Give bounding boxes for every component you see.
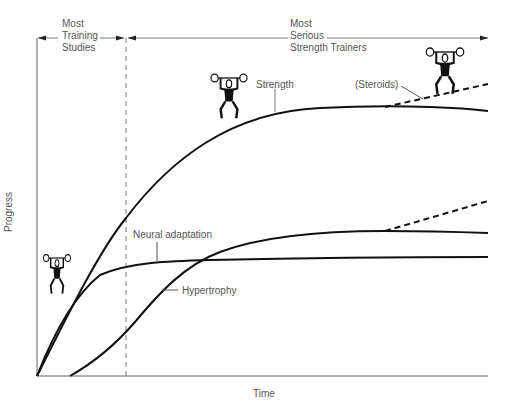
y-axis-label: Progress xyxy=(3,192,14,232)
region-right-line-3: Strength Trainers xyxy=(290,42,367,54)
diagram-canvas xyxy=(0,0,508,410)
strength-label: Strength xyxy=(256,79,294,91)
region-left-line-3: Studies xyxy=(62,42,98,54)
hypertrophy-steroids-curve xyxy=(385,201,488,231)
region-arrows xyxy=(38,36,488,41)
x-axis-label: Time xyxy=(253,388,275,400)
hypertrophy-label: Hypertrophy xyxy=(182,285,236,297)
region-left-line-2: Training xyxy=(62,30,98,42)
lifter-icon-medium xyxy=(211,74,247,118)
neural-adaptation-curve xyxy=(37,257,488,376)
neural-adaptation-label: Neural adaptation xyxy=(133,229,212,241)
steroids-leader xyxy=(401,86,423,99)
hypertrophy-curve xyxy=(70,231,488,376)
region-right-line-1: Most xyxy=(290,18,367,30)
region-right-line-2: Serious xyxy=(290,30,367,42)
region-right-label: Most Serious Strength Trainers xyxy=(290,18,367,54)
steroids-label: (Steroids) xyxy=(355,79,398,91)
lifter-icon-small xyxy=(44,255,71,294)
region-left-line-1: Most xyxy=(62,18,98,30)
region-left-label: Most Training Studies xyxy=(62,18,98,54)
lifter-icon-large xyxy=(426,48,464,94)
